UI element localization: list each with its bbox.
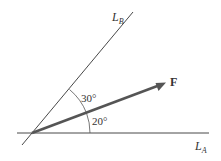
angle-label-20: 20° [92,115,107,127]
angle-label-30: 30° [81,92,96,104]
force-arrowhead-icon [156,83,167,92]
line-b-label: LB [111,10,124,26]
line-a-label: LA [194,139,207,155]
angle-arc-20 [87,113,91,133]
line-b [22,12,133,145]
force-label: F [170,75,177,89]
force-diagram: LB F 30° 20° LA [0,0,221,161]
